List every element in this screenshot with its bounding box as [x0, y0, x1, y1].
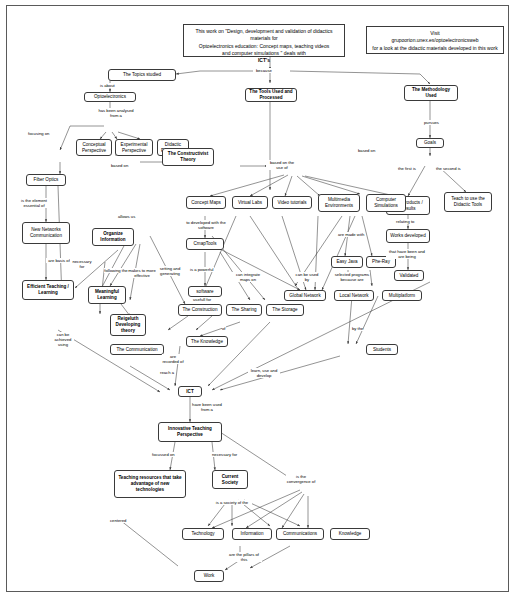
node-label: The Methodology Used	[407, 87, 455, 98]
node-students[interactable]: Students	[366, 344, 398, 355]
node-new-networks-communication[interactable]: New Networks Communication	[22, 222, 70, 244]
node-multiplatform[interactable]: Multiplatform	[382, 290, 422, 301]
node-label: The Topics studied	[123, 72, 161, 78]
link-label-has-been-analysed: has been analysed from a	[96, 108, 136, 118]
link-label-relating-to: relating to	[396, 219, 414, 224]
node-conceptual-perspective[interactable]: Conceptual Perspective	[76, 139, 112, 156]
link-label-following-the: following the	[104, 268, 128, 273]
link-label-necessary-for: necessary for	[70, 259, 94, 269]
node-reigeluth-theory[interactable]: Reigeluth Developing theory	[110, 314, 146, 336]
link-label-makes-more-effective: makes to more effective	[128, 268, 156, 278]
node-efficient-teaching-learning[interactable]: Efficient Teaching / Learning	[22, 280, 74, 300]
node-label: Knowledge	[339, 531, 362, 537]
node-validated[interactable]: Validated	[394, 270, 424, 281]
link-label-focusing-on: focusing on	[28, 131, 49, 136]
node-label: Students	[373, 347, 391, 353]
node-label: Work	[204, 573, 215, 579]
link-label-can-be-used-by: can be used by	[294, 272, 320, 282]
node-label: The Storage	[272, 307, 297, 313]
link-label-is-a-society-of-the: is a society of the	[212, 500, 252, 505]
node-the-knowledge[interactable]: The Knowledge	[186, 336, 228, 347]
node-label: Works developed	[390, 233, 425, 239]
node-label: Optoelectronics	[94, 94, 126, 100]
link-label-based-on-use-of: based on the use of	[266, 160, 298, 170]
node-easy-java[interactable]: Easy Java	[331, 256, 363, 268]
node-experimental-perspective[interactable]: Experimental Perspective	[115, 139, 153, 156]
node-label: Teach to use the Didactic Tools	[447, 196, 489, 207]
node-label: Phe-Ray	[372, 259, 390, 265]
link-label-pursues: pursues	[424, 120, 439, 125]
node-communications[interactable]: Communications	[276, 528, 324, 540]
node-label: Easy Java	[336, 259, 357, 265]
node-the-communication[interactable]: The Communication	[110, 344, 164, 355]
node-knowledge[interactable]: Knowledge	[330, 528, 370, 540]
node-computer-simulations[interactable]: Computer Simulations	[366, 194, 406, 212]
node-information[interactable]: Information	[232, 528, 272, 540]
link-label-necessary-for-2: necessary for	[212, 452, 237, 457]
link-label-focussed-on: focussed on	[152, 452, 175, 457]
banner-right-line-3: for a look at the didactic materials dev…	[371, 45, 499, 52]
node-the-construction[interactable]: The Construction	[178, 304, 222, 316]
node-teaching-resources[interactable]: Teaching resources that take advantage o…	[114, 470, 186, 498]
node-label: ICT	[186, 389, 193, 395]
node-label: Information	[241, 531, 264, 537]
node-video-tutorials[interactable]: Video tutorials	[272, 196, 312, 209]
node-constructivist-theory[interactable]: The Constructivist Theory	[162, 148, 214, 166]
concept-map-page: This work on "Design, development and va…	[0, 0, 517, 599]
node-teach-didactic-tools[interactable]: Teach to use the Didactic Tools	[444, 192, 492, 212]
node-the-sharing[interactable]: The Sharing	[226, 304, 262, 316]
node-label: The Construction	[183, 307, 218, 313]
node-local-network[interactable]: Local Network	[334, 290, 374, 301]
link-label-centered: centered	[110, 518, 126, 523]
link-label-based-on-right: based on	[358, 148, 375, 153]
node-tools-used-processed[interactable]: The Tools Used and Processed	[245, 88, 297, 102]
node-organize-information[interactable]: Organize Information	[92, 228, 134, 246]
link-label-because-top: because	[256, 68, 272, 73]
node-the-storage[interactable]: The Storage	[266, 304, 304, 316]
node-label: Computer Simulations	[369, 197, 403, 208]
node-goals[interactable]: Goals	[416, 138, 444, 148]
link-label-setting-generating: setting and generating	[156, 266, 184, 276]
node-multimedia-environments[interactable]: Multimedia Environments	[318, 194, 360, 212]
node-virtual-labs[interactable]: Virtual Labs	[232, 196, 268, 209]
node-works-developed[interactable]: Works developed	[386, 229, 430, 243]
node-label: Communications	[283, 531, 317, 537]
node-optoelectronics[interactable]: Optoelectronics	[84, 92, 136, 102]
node-concept-maps[interactable]: Concept Maps	[186, 196, 226, 209]
node-methodology-used[interactable]: The Methodology Used	[404, 85, 458, 101]
link-label-reach-a: reach a	[160, 370, 174, 375]
node-label: Innovative Teaching Perspective	[161, 426, 219, 437]
banner-left-line-1: This work on "Design, development and va…	[188, 28, 340, 43]
node-label: software	[196, 289, 213, 295]
node-label: CmapTools	[194, 241, 217, 247]
link-label-usefull-for: usefull for	[193, 297, 211, 302]
node-label: Fiber Optics	[34, 177, 59, 183]
node-current-society[interactable]: Current Society	[212, 470, 248, 489]
node-label: Organize Information	[95, 231, 131, 242]
node-label: Global Network	[289, 293, 320, 299]
link-label-of-knowledge: of	[222, 326, 226, 331]
link-label-are-recorded-of: are recorded of	[162, 354, 184, 364]
node-cmaptools[interactable]: CmapTools	[186, 238, 224, 250]
node-technology[interactable]: Technology	[182, 528, 224, 540]
node-global-network[interactable]: Global Network	[284, 290, 326, 301]
banner-right: Visit grupoorion.unex.es/optoelectronics…	[366, 26, 504, 54]
node-label: The Constructivist Theory	[165, 151, 211, 162]
node-software[interactable]: software	[188, 286, 222, 297]
node-ict[interactable]: ICT	[178, 386, 202, 397]
node-work[interactable]: Work	[194, 570, 224, 582]
node-meaningful-learning[interactable]: Meaningful Learning	[88, 286, 126, 304]
banner-left-line-2: Optoelectronics education: Concept maps,…	[188, 43, 340, 50]
link-label-is-element-essential: is the element essential of	[18, 198, 50, 208]
banner-right-line-1: Visit	[371, 30, 499, 37]
node-label: Teaching resources that take advantage o…	[117, 475, 183, 492]
node-label: Goals	[424, 140, 436, 146]
node-fiber-optics[interactable]: Fiber Optics	[26, 174, 66, 186]
node-label: Meaningful Learning	[91, 289, 123, 300]
node-label: Experimental Perspective	[118, 142, 150, 153]
banner-right-line-2: grupoorion.unex.es/optoelectronicsweb	[371, 37, 499, 44]
node-label: New Networks Communication	[25, 227, 67, 238]
node-innovative-teaching-perspective[interactable]: Innovative Teaching Perspective	[158, 422, 222, 442]
node-label: Virtual Labs	[238, 200, 262, 206]
node-topics-studied[interactable]: The Topics studied	[108, 69, 176, 81]
